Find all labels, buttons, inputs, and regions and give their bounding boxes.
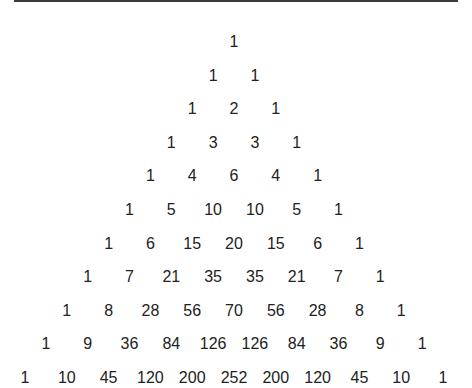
triangle-cell: 1 [5, 369, 45, 387]
triangle-cell: 35 [235, 268, 275, 286]
triangle-cell: 9 [68, 335, 108, 353]
triangle-cell: 45 [339, 369, 379, 387]
triangle-cell: 1 [68, 268, 108, 286]
triangle-cell: 2 [214, 100, 254, 118]
triangle-cell: 126 [235, 335, 275, 353]
triangle-cell: 1 [214, 33, 254, 51]
triangle-cell: 10 [193, 201, 233, 219]
triangle-cell: 21 [277, 268, 317, 286]
triangle-cell: 1 [319, 201, 359, 219]
triangle-cell: 28 [130, 302, 170, 320]
triangle-cell: 1 [172, 100, 212, 118]
triangle-cell: 126 [193, 335, 233, 353]
triangle-cell: 36 [110, 335, 150, 353]
triangle-cell: 1 [360, 268, 400, 286]
triangle-cell: 21 [151, 268, 191, 286]
triangle-cell: 4 [256, 167, 296, 185]
triangle-cell: 200 [172, 369, 212, 387]
triangle-cell: 20 [214, 235, 254, 253]
triangle-cell: 70 [214, 302, 254, 320]
triangle-cell: 10 [47, 369, 87, 387]
triangle-cell: 15 [256, 235, 296, 253]
triangle-cell: 1 [151, 134, 191, 152]
triangle-cell: 6 [298, 235, 338, 253]
triangle-cell: 45 [89, 369, 129, 387]
triangle-cell: 1 [235, 67, 275, 85]
triangle-cell: 200 [256, 369, 296, 387]
triangle-cell: 7 [110, 268, 150, 286]
triangle-cell: 84 [277, 335, 317, 353]
triangle-cell: 8 [89, 302, 129, 320]
triangle-cell: 3 [193, 134, 233, 152]
triangle-cell: 120 [130, 369, 170, 387]
triangle-cell: 6 [130, 235, 170, 253]
triangle-cell: 1 [381, 302, 421, 320]
triangle-cell: 3 [235, 134, 275, 152]
triangle-cell: 1 [26, 335, 66, 353]
triangle-cell: 1 [193, 67, 233, 85]
triangle-cell: 120 [298, 369, 338, 387]
triangle-cell: 1 [298, 167, 338, 185]
triangle-cell: 28 [298, 302, 338, 320]
triangle-cell: 10 [235, 201, 275, 219]
triangle-cell: 1 [47, 302, 87, 320]
triangle-cell: 1 [402, 335, 442, 353]
triangle-cell: 5 [151, 201, 191, 219]
triangle-cell: 1 [89, 235, 129, 253]
pascal-triangle: 1111211331146411510105116152015611721353… [0, 0, 472, 388]
triangle-cell: 7 [319, 268, 359, 286]
triangle-cell: 84 [151, 335, 191, 353]
triangle-cell: 1 [256, 100, 296, 118]
triangle-cell: 6 [214, 167, 254, 185]
triangle-cell: 252 [214, 369, 254, 387]
triangle-cell: 1 [277, 134, 317, 152]
triangle-cell: 4 [172, 167, 212, 185]
triangle-cell: 36 [319, 335, 359, 353]
triangle-cell: 35 [193, 268, 233, 286]
triangle-cell: 15 [172, 235, 212, 253]
triangle-cell: 1 [339, 235, 379, 253]
triangle-cell: 1 [130, 167, 170, 185]
triangle-cell: 8 [339, 302, 379, 320]
triangle-cell: 56 [172, 302, 212, 320]
triangle-cell: 1 [423, 369, 463, 387]
triangle-cell: 9 [360, 335, 400, 353]
triangle-cell: 10 [381, 369, 421, 387]
triangle-cell: 56 [256, 302, 296, 320]
triangle-cell: 5 [277, 201, 317, 219]
triangle-cell: 1 [110, 201, 150, 219]
